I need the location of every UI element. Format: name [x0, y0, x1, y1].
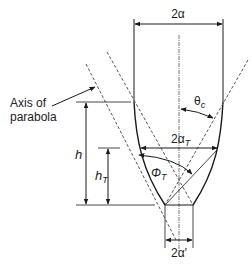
truncation-diagonal [165, 150, 217, 205]
entrance-width-label: 2α [171, 7, 185, 21]
truncation-angle-label: ΦT [151, 166, 168, 182]
truncated-width-label: 2αT [171, 132, 192, 148]
left-parabola-axis-dashed [86, 64, 176, 240]
axis-callout-label-line1: Axis of [10, 96, 47, 110]
axis-callout-label-line2: parabola [10, 110, 57, 124]
acceptance-angle-label: θc [194, 94, 206, 110]
left-parabola-wall [134, 102, 165, 205]
cpc-diagram: 2α θc 2αT ΦT h hT 2α' Axis of parabola [0, 0, 252, 264]
exit-width-label: 2α' [171, 246, 187, 260]
left-acceptance-dashed [107, 52, 193, 205]
truncated-height-label: hT [95, 168, 109, 185]
right-parabola-wall [193, 102, 223, 205]
height-label: h [75, 147, 82, 162]
acceptance-angle-arc [181, 109, 213, 118]
axis-callout-arrow [52, 87, 95, 106]
